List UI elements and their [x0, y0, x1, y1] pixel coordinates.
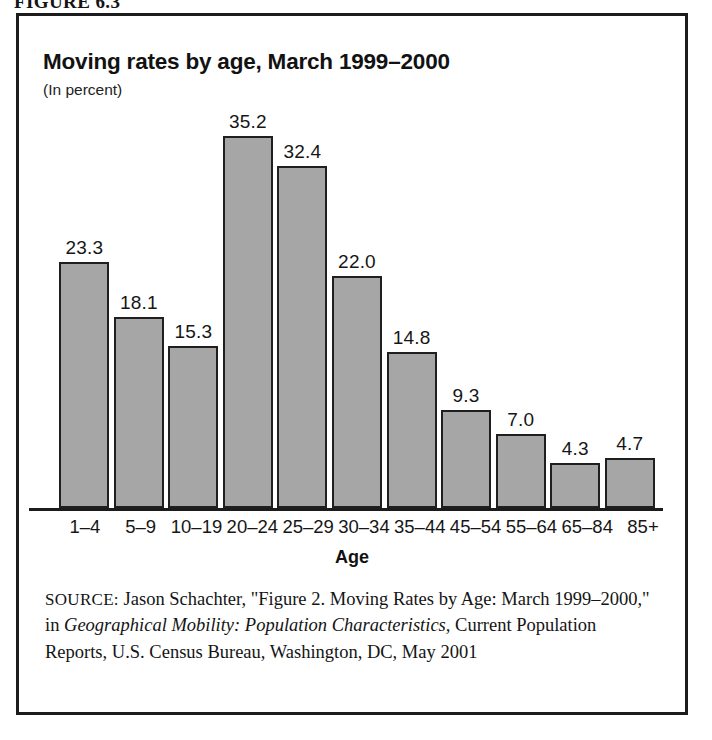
- source-label: SOURCE:: [45, 590, 119, 609]
- figure-number-label: FIGURE 6.3: [14, 0, 120, 13]
- x-axis-tick-label: 5–9: [113, 516, 169, 538]
- x-axis-title: Age: [19, 547, 685, 568]
- x-axis-tick-label: 45–54: [448, 516, 504, 538]
- x-axis-tick-labels: 1–45–910–1920–2425–2930–3435–4445–5455–6…: [57, 516, 671, 538]
- bar-slot: 9.3: [439, 108, 494, 508]
- figure-panel: Moving rates by age, March 1999–2000 (In…: [19, 16, 685, 712]
- bar[interactable]: [496, 434, 546, 508]
- bar[interactable]: [605, 458, 655, 508]
- x-axis-tick-label: 30–34: [336, 516, 392, 538]
- bar[interactable]: [387, 352, 437, 508]
- bar[interactable]: [168, 346, 218, 508]
- x-axis-tick-label: 10–19: [169, 516, 225, 538]
- plot-area: 23.318.115.335.232.422.014.89.37.04.34.7: [43, 108, 667, 508]
- x-axis-tick-label: 55–64: [504, 516, 560, 538]
- x-axis-line: [29, 508, 663, 511]
- bar-slot: 4.3: [548, 108, 603, 508]
- bar[interactable]: [59, 262, 109, 508]
- bar-value-label: 22.0: [338, 252, 376, 271]
- bar-value-label: 32.4: [284, 142, 322, 161]
- x-axis-tick-label: 25–29: [280, 516, 336, 538]
- bar-value-label: 15.3: [174, 322, 212, 341]
- bar-value-label: 9.3: [453, 386, 480, 405]
- bar[interactable]: [114, 317, 164, 508]
- bar-slot: 22.0: [330, 108, 385, 508]
- bar-value-label: 23.3: [65, 238, 103, 257]
- x-axis-tick-label: 35–44: [392, 516, 448, 538]
- chart-title: Moving rates by age, March 1999–2000: [43, 49, 450, 75]
- bar-slot: 23.3: [57, 108, 112, 508]
- bar-slot: 15.3: [166, 108, 221, 508]
- bar-value-label: 4.7: [616, 434, 643, 453]
- bar-slot: 35.2: [221, 108, 276, 508]
- bar-value-label: 14.8: [393, 328, 431, 347]
- bar-series: 23.318.115.335.232.422.014.89.37.04.34.7: [57, 108, 657, 508]
- bar-slot: 14.8: [384, 108, 439, 508]
- bar-value-label: 18.1: [120, 293, 158, 312]
- source-publication-title: Geographical Mobility: Population Charac…: [64, 615, 450, 635]
- bar[interactable]: [223, 136, 273, 508]
- bar-slot: 4.7: [602, 108, 657, 508]
- bar-value-label: 35.2: [229, 112, 267, 131]
- source-note: SOURCE: Jason Schachter, "Figure 2. Movi…: [45, 586, 661, 665]
- bar[interactable]: [332, 276, 382, 509]
- bar-value-label: 7.0: [507, 410, 534, 429]
- bar-value-label: 4.3: [562, 439, 589, 458]
- bar-slot: 7.0: [493, 108, 548, 508]
- x-axis-tick-label: 20–24: [224, 516, 280, 538]
- x-axis-tick-label: 65–84: [559, 516, 615, 538]
- figure-frame: Moving rates by age, March 1999–2000 (In…: [16, 13, 688, 715]
- bar-slot: 32.4: [275, 108, 330, 508]
- bar-slot: 18.1: [112, 108, 167, 508]
- chart-subtitle: (In percent): [43, 81, 122, 99]
- bar[interactable]: [441, 410, 491, 508]
- x-axis-tick-label: 85+: [615, 516, 671, 538]
- bar[interactable]: [277, 166, 327, 508]
- bar[interactable]: [550, 463, 600, 508]
- x-axis-tick-label: 1–4: [57, 516, 113, 538]
